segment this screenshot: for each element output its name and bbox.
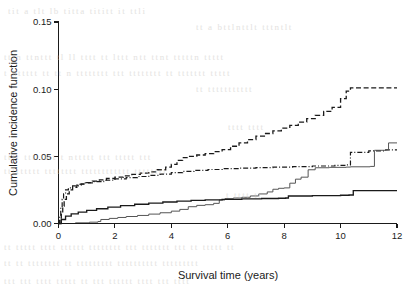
series-line-curve-dashed-upper	[59, 88, 398, 224]
figure-container: tit a tlt lb titta tititt it ttlitt a bt…	[0, 0, 414, 286]
x-tick-label: 12	[392, 230, 403, 241]
y-tick-label: 0.15	[33, 16, 52, 27]
cumulative-incidence-chart: 0.000.050.100.15024681012 Survival time …	[0, 0, 414, 286]
x-tick-label: 6	[225, 230, 230, 241]
y-tick-label: 0.05	[33, 151, 52, 162]
curves-group	[59, 88, 398, 224]
y-axis-title: Cumulative incidence function	[7, 50, 19, 196]
x-axis-title: Survival time (years)	[178, 269, 278, 281]
axis-ticks-group: 0.000.050.100.15024681012	[33, 16, 402, 241]
y-tick-label: 0.00	[33, 218, 52, 229]
x-tick-label: 8	[282, 230, 287, 241]
y-tick-label: 0.10	[33, 84, 52, 95]
series-line-curve-dashdot-second	[59, 150, 398, 224]
x-tick-label: 4	[169, 230, 174, 241]
x-tick-label: 10	[335, 230, 346, 241]
x-tick-label: 2	[112, 230, 117, 241]
x-tick-label: 0	[56, 230, 61, 241]
axes-group	[59, 22, 398, 224]
series-line-curve-solid-thin-third	[59, 143, 398, 224]
